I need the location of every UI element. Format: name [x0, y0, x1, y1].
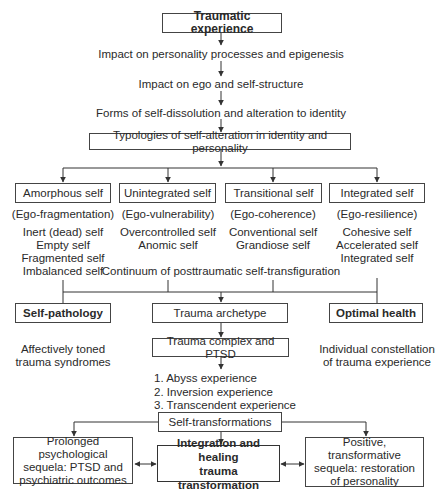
prolonged-sequela-box: Prolonged psychological sequela: PTSD an… — [13, 437, 133, 484]
box-line: trauma transformation — [158, 464, 279, 492]
flow-step-personality: Impact on personality processes and epig… — [98, 48, 343, 61]
unintegrated-items: Overcontrolled self Anomic self — [120, 226, 216, 252]
flow-step-ego: Impact on ego and self-structure — [139, 78, 304, 91]
unintegrated-self-box: Unintegrated self — [119, 183, 216, 203]
box-line: psychiatric outcomes — [19, 474, 126, 487]
item: Cohesive self — [336, 226, 418, 239]
typologies-box: Typologies of self-alteration in identit… — [89, 133, 351, 150]
optimal-health-desc: Individual constellation of trauma exper… — [319, 343, 435, 369]
transitional-self-box: Transitional self — [225, 183, 322, 203]
continuum-label: Continuum of posttraumatic self-transfig… — [102, 265, 340, 278]
self-pathology-box: Self-pathology — [15, 303, 111, 323]
box-line: sequela: PTSD and — [23, 461, 123, 474]
item: Inert (dead) self — [21, 226, 104, 239]
integrated-items: Cohesive self Accelerated self Integrate… — [336, 226, 418, 265]
trauma-archetype-box: Trauma archetype — [152, 303, 288, 323]
transitional-items: Conventional self Grandiose self — [229, 226, 317, 252]
item: Overcontrolled self — [120, 226, 216, 239]
box-line: Integration and healing — [158, 436, 279, 464]
integration-healing-box: Integration and healing trauma transform… — [157, 445, 280, 482]
desc-line: trauma syndromes — [15, 356, 110, 369]
experiences-list: 1. Abyss experience 2. Inversion experie… — [154, 372, 296, 413]
item: Imbalanced self — [21, 265, 104, 278]
desc-line: Affectively toned — [15, 343, 110, 356]
experience-item: 2. Inversion experience — [154, 386, 296, 400]
item: Grandiose self — [229, 239, 317, 252]
ego-fragmentation-label: (Ego-fragmentation) — [12, 208, 114, 221]
experience-item: 1. Abyss experience — [154, 372, 296, 386]
self-transformations-box: Self-transformations — [158, 412, 282, 432]
ego-vulnerability-label: (Ego-vulnerability) — [122, 208, 215, 221]
flow-step-dissolution: Forms of self-dissolution and alteration… — [96, 107, 346, 120]
box-line: of personality — [330, 475, 398, 488]
traumatic-experience-box: Traumatic experience — [162, 13, 282, 33]
item: Fragmented self — [21, 252, 104, 265]
amorphous-items: Inert (dead) self Empty self Fragmented … — [21, 226, 104, 278]
trauma-complex-box: Trauma complex and PTSD — [152, 338, 289, 357]
ego-resilience-label: (Ego-resilience) — [337, 208, 418, 221]
amorphous-self-box: Amorphous self — [15, 183, 111, 203]
ego-coherence-label: (Ego-coherence) — [230, 208, 316, 221]
item: Conventional self — [229, 226, 317, 239]
optimal-health-box: Optimal health — [329, 303, 423, 323]
positive-sequela-box: Positive, transformative sequela: restor… — [305, 437, 424, 487]
item: Accelerated self — [336, 239, 418, 252]
box-line: Positive, transformative — [306, 436, 423, 462]
box-line: sequela: restoration — [314, 462, 415, 475]
desc-line: of trauma experience — [319, 356, 435, 369]
integrated-self-box: Integrated self — [329, 183, 425, 203]
box-line: Prolonged psychological — [14, 435, 132, 461]
item: Integrated self — [336, 252, 418, 265]
desc-line: Individual constellation — [319, 343, 435, 356]
item: Empty self — [21, 239, 104, 252]
self-pathology-desc: Affectively toned trauma syndromes — [15, 343, 110, 369]
experience-item: 3. Transcendent experience — [154, 399, 296, 413]
item: Anomic self — [120, 239, 216, 252]
